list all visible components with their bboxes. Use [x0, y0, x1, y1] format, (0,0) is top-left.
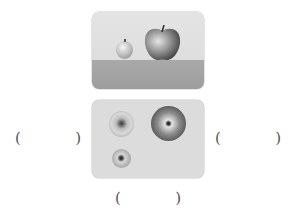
top-view-image [92, 100, 204, 178]
close-paren: ) [75, 129, 81, 147]
answer-blank-right[interactable]: ( ) [215, 128, 281, 148]
open-paren: ( [115, 189, 121, 207]
small-fruit-top-view-icon [112, 149, 131, 168]
apple-icon [143, 25, 182, 62]
open-paren: ( [215, 129, 221, 147]
open-paren: ( [15, 129, 21, 147]
small-fruit-icon [116, 41, 133, 59]
fruit-top-view-icon [109, 111, 134, 137]
table-surface [92, 60, 204, 89]
large-fruit-top-view-icon [151, 106, 186, 141]
close-paren: ) [175, 189, 181, 207]
answer-blank-bottom[interactable]: ( ) [115, 188, 181, 208]
small-fruit-stem-icon [124, 39, 126, 42]
answer-blank-left[interactable]: ( ) [15, 128, 81, 148]
front-view-image [92, 12, 204, 89]
close-paren: ) [275, 129, 281, 147]
